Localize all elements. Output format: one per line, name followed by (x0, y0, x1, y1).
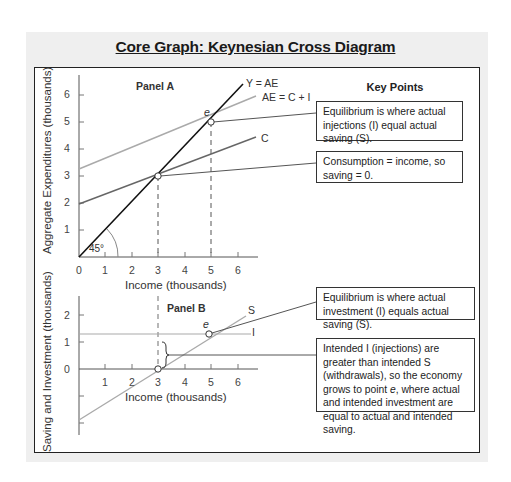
panel-a-ylabel: Aggregate Expenditures (thousands) (41, 74, 53, 254)
ae-line (79, 96, 256, 169)
b-x-tick-1: 1 (98, 376, 112, 388)
x-tick-4: 4 (178, 264, 192, 276)
panel-b-ylabel: Saving and Investment (thousands) (41, 272, 53, 452)
panel-b-xlabel: Income (thousands) (125, 391, 227, 403)
zero-saving-point (155, 366, 161, 372)
panel-a-label: Panel A (136, 80, 174, 92)
y-tick-2: 2 (60, 196, 74, 208)
b-y-tick-0: 0 (60, 363, 74, 375)
e-label-a: e (204, 106, 210, 118)
callout-equilibrium-a: Equilibrium is where actual injections (… (316, 101, 463, 141)
equilibrium-point-a (208, 119, 214, 125)
x-tick-1: 1 (98, 264, 112, 276)
y-equals-ae-line (79, 84, 243, 257)
b-x-tick-3: 3 (151, 376, 165, 388)
e-label-b: e (203, 318, 209, 330)
panel-b (79, 296, 316, 435)
x-tick-2: 2 (125, 264, 139, 276)
panel-a-xlabel: Income (thousands) (125, 279, 227, 291)
panel-b-label: Panel B (167, 302, 206, 314)
s-label: S (248, 304, 255, 316)
b-y-tick-1: 1 (60, 336, 74, 348)
b-x-tick-6: 6 (231, 376, 245, 388)
angle-label: 45° (89, 243, 104, 254)
callout-equilibrium-b: Equilibrium is where actual investment (… (316, 287, 475, 320)
y-tick-3: 3 (60, 169, 74, 181)
b-x-tick-2: 2 (125, 376, 139, 388)
y-ae-label: Y = AE (246, 77, 278, 89)
ae-label: AE = C + I (262, 91, 310, 103)
y-tick-6: 6 (60, 88, 74, 100)
i-label: I (252, 326, 255, 338)
x-tick-5: 5 (204, 264, 218, 276)
c-label: C (261, 132, 269, 144)
x-tick-3: 3 (151, 264, 165, 276)
y-tick-1: 1 (60, 223, 74, 235)
b-x-tick-5: 5 (204, 376, 218, 388)
equilibrium-point-b (206, 331, 212, 337)
b-y-tick-2: 2 (60, 309, 74, 321)
y-tick-4: 4 (60, 142, 74, 154)
x-tick-0: 0 (72, 264, 86, 276)
callout-intended: Intended I (injections) are greater than… (316, 338, 475, 412)
y-tick-5: 5 (60, 115, 74, 127)
x-tick-6: 6 (231, 264, 245, 276)
b-x-tick-4: 4 (178, 376, 192, 388)
breakeven-point (155, 173, 161, 179)
key-points-heading: Key Points (360, 81, 430, 93)
callout-consumption: Consumption = income, so saving = 0. (316, 151, 463, 183)
